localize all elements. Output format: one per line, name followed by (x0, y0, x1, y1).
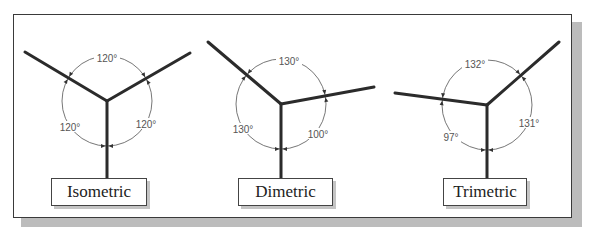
dimetric-arrow-tick (283, 147, 288, 151)
isometric-arrow-tick (101, 144, 106, 148)
trimetric-angle-label-0: 132° (465, 59, 486, 70)
isometric-group: 120°120°120° (25, 52, 190, 178)
dimetric-group: 130°130°100° (208, 42, 374, 178)
trimetric-angle-label-2: 131° (519, 118, 540, 129)
trimetric-arrow-tick (481, 148, 486, 152)
trimetric-axis-1 (487, 42, 559, 105)
trimetric-arrow-tick (522, 76, 526, 81)
dimetric-arrow-tick (324, 97, 328, 102)
isometric-angle-label-1: 120° (60, 122, 81, 133)
dimetric-axis-0 (208, 42, 281, 104)
dimetric-angle-label-1: 130° (233, 124, 254, 135)
dimetric-angle-label-2: 100° (308, 129, 329, 140)
isometric-label: Isometric (67, 182, 131, 202)
dimetric-arrow-tick (241, 76, 245, 81)
isometric-angle-label-0: 120° (97, 53, 118, 64)
dimetric-arrow-tick (322, 90, 326, 95)
dimetric-label: Dimetric (255, 182, 315, 202)
trimetric-angle-label-1: 97° (443, 132, 458, 143)
trimetric-arrow-tick (489, 148, 494, 152)
isometric-label-box: Isometric (51, 178, 147, 206)
dimetric-angle-label-0: 130° (279, 56, 300, 67)
trimetric-group: 132°97°131° (395, 42, 559, 178)
dimetric-arrow-tick (275, 147, 280, 151)
trimetric-label-box: Trimetric (443, 178, 527, 206)
isometric-angle-label-2: 120° (136, 119, 157, 130)
trimetric-label: Trimetric (453, 182, 517, 202)
dimetric-label-box: Dimetric (238, 178, 333, 206)
trimetric-arrow-tick (440, 101, 444, 106)
isometric-arrow-tick (109, 144, 114, 148)
diagram-stage: 120°120°120°130°130°100°132°97°131° Isom… (0, 0, 590, 232)
